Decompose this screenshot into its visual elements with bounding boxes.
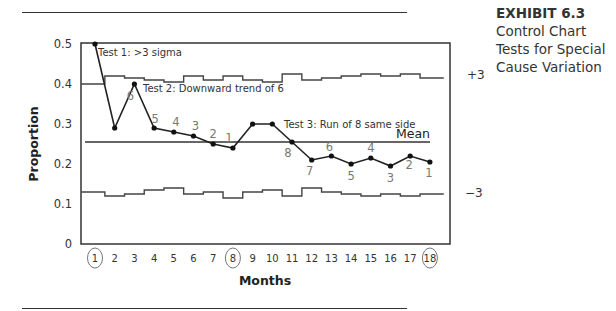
plot-frame	[81, 43, 450, 244]
y-tick-label: 0.1	[54, 197, 72, 211]
x-tick-label: 8	[230, 253, 236, 264]
y-tick-label: 0.5	[54, 37, 72, 51]
x-tick-label: 14	[345, 253, 358, 264]
lower-control-limit-line	[81, 188, 444, 198]
y-tick-label: 0	[65, 237, 72, 251]
data-series	[92, 41, 432, 168]
data-point	[309, 157, 314, 162]
data-point	[132, 81, 137, 86]
trend-count-label: 4	[367, 141, 374, 155]
x-tick-label: 9	[249, 253, 255, 264]
x-tick-label: 4	[151, 253, 157, 264]
data-point	[289, 139, 294, 144]
trend-count-label: 5	[347, 169, 354, 183]
point-labels: 65432187654321	[127, 89, 433, 185]
data-point	[349, 161, 354, 166]
data-point	[329, 153, 334, 158]
x-axis-ticks: 123456789101112131415161718	[88, 248, 438, 268]
data-point	[112, 125, 117, 130]
trend-count-label: 1	[225, 131, 232, 145]
test-annotation: Test 3: Run of 8 same side	[283, 119, 415, 130]
trend-count-label: 8	[284, 146, 291, 160]
trend-count-label: 7	[306, 164, 313, 178]
x-tick-label: 2	[112, 253, 118, 264]
data-point	[388, 163, 393, 168]
data-point	[270, 121, 275, 126]
data-point	[368, 155, 373, 160]
y-tick-label: 0.4	[54, 77, 72, 91]
data-point	[152, 125, 157, 130]
y-axis-ticks: 00.10.20.30.40.5	[54, 37, 72, 251]
x-tick-label: 13	[325, 253, 338, 264]
data-point	[191, 133, 196, 138]
data-point	[427, 159, 432, 164]
trend-count-label: 2	[210, 127, 217, 141]
y-tick-label: 0.3	[54, 117, 72, 131]
control-chart: 00.10.20.30.40.5 Proportion 123456789101…	[0, 0, 616, 311]
x-tick-label: 3	[131, 253, 137, 264]
x-tick-label: 1	[92, 253, 98, 264]
x-tick-label: 12	[305, 253, 318, 264]
x-tick-label: 6	[190, 253, 196, 264]
trend-count-label: 3	[192, 119, 199, 133]
trend-count-label: 6	[326, 140, 333, 154]
y-tick-label: 0.2	[54, 157, 72, 171]
trend-count-label: 3	[387, 171, 394, 185]
x-tick-label: 15	[364, 253, 377, 264]
x-tick-label: 5	[171, 253, 177, 264]
trend-count-label: 2	[406, 158, 413, 172]
test-annotation: Test 1: >3 sigma	[97, 47, 182, 58]
x-tick-label: 10	[266, 253, 279, 264]
upper-limit-label: +3	[467, 68, 485, 82]
proportion-line	[95, 44, 430, 166]
data-point	[171, 129, 176, 134]
trend-count-label: 6	[127, 89, 134, 103]
x-axis-label: Months	[239, 273, 291, 288]
x-tick-label: 7	[210, 253, 216, 264]
trend-count-label: 5	[151, 112, 158, 126]
data-point	[92, 41, 97, 46]
x-tick-label: 18	[424, 253, 437, 264]
test-annotation: Test 2: Downward trend of 6	[142, 83, 284, 94]
x-tick-label: 16	[384, 253, 397, 264]
data-point	[211, 141, 216, 146]
trend-count-label: 4	[172, 115, 179, 129]
annotations: Test 1: >3 sigmaTest 2: Downward trend o…	[97, 47, 415, 130]
data-point	[230, 145, 235, 150]
x-tick-label: 11	[286, 253, 299, 264]
lower-limit-label: −3	[465, 186, 483, 200]
data-point	[250, 121, 255, 126]
x-tick-label: 17	[404, 253, 417, 264]
y-axis-label: Proportion	[26, 106, 41, 181]
trend-count-label: 1	[425, 166, 432, 180]
